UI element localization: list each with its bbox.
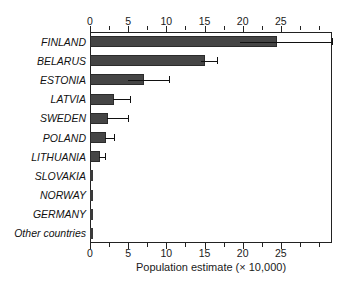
error-bar-cap — [332, 38, 333, 45]
category-axis-labels: FINLANDBELARUSESTONIALATVIASWEDENPOLANDL… — [0, 32, 86, 243]
category-label: GERMANY — [0, 209, 86, 220]
error-bar-cap — [105, 153, 106, 160]
axis-tick-minor — [109, 26, 110, 30]
axis-tick-minor — [185, 26, 186, 30]
category-label: Other countries — [0, 228, 86, 239]
bar — [90, 113, 108, 124]
axis-tick-label: 5 — [125, 246, 131, 260]
category-label: NORWAY — [0, 190, 86, 201]
axis-tick-minor — [147, 26, 148, 30]
axis-tick-label: 20 — [237, 246, 249, 260]
category-label: SWEDEN — [0, 113, 86, 124]
category-label: LITHUANIA — [0, 151, 86, 162]
bar — [90, 190, 93, 201]
category-label: SLOVAKIA — [0, 170, 86, 181]
bar — [90, 132, 106, 143]
error-bar-cap — [217, 57, 218, 64]
bar — [90, 94, 114, 105]
error-bar — [105, 138, 113, 139]
category-label: LATVIA — [0, 94, 86, 105]
category-label: FINLAND — [0, 36, 86, 47]
error-bar-cap — [114, 134, 115, 141]
error-bar — [113, 99, 130, 100]
chart-figure: 0510152025 FINLANDBELARUSESTONIALATVIASW… — [0, 0, 337, 286]
error-bar-cap — [128, 115, 129, 122]
axis-tick-label: 0 — [87, 246, 93, 260]
bar — [90, 209, 93, 220]
axis-tick-minor — [224, 26, 225, 30]
category-label: ESTONIA — [0, 74, 86, 85]
bottom-axis-tick-labels: 0510152025 — [90, 246, 332, 260]
error-bar-cap — [169, 76, 170, 83]
category-label: BELARUS — [0, 55, 86, 66]
bar — [90, 170, 93, 181]
bar — [90, 228, 93, 239]
error-bar — [128, 80, 169, 81]
axis-tick-minor — [319, 26, 320, 30]
axis-tick-minor — [262, 26, 263, 30]
bar — [90, 55, 205, 66]
x-axis-title: Population estimate (× 10,000) — [90, 261, 332, 273]
error-bar — [107, 118, 128, 119]
category-label: POLAND — [0, 132, 86, 143]
error-bar-cap — [130, 96, 131, 103]
axis-tick-label: 25 — [275, 246, 287, 260]
axis-tick-label: 10 — [160, 246, 172, 260]
axis-tick-label: 15 — [199, 246, 211, 260]
axis-tick-minor — [300, 26, 301, 30]
error-bar — [240, 42, 332, 43]
error-bar — [201, 61, 217, 62]
bar-series — [90, 32, 332, 243]
